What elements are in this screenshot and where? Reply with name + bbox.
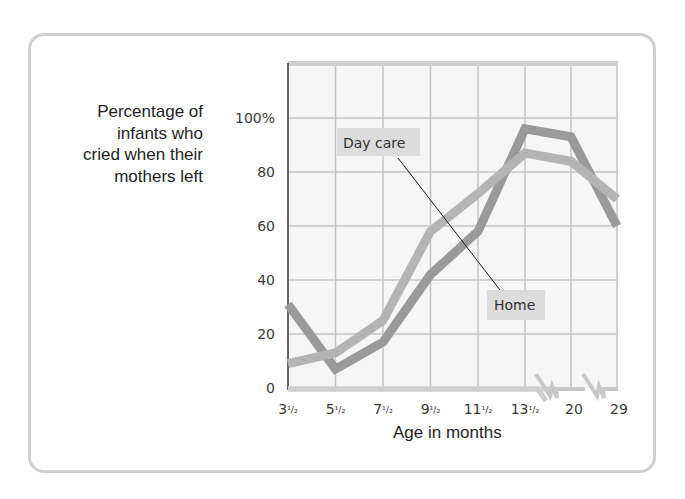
- x-tick-label: 7¹/₂: [373, 401, 393, 417]
- x-axis-label: Age in months: [393, 423, 502, 443]
- x-tick-label: 20: [565, 401, 583, 417]
- plot-top-border: [288, 61, 618, 66]
- y-tick-labels: 020406080100%: [235, 110, 275, 396]
- x-tick-label: 3¹/₂: [278, 401, 298, 417]
- y-tick-label: 40: [257, 272, 275, 288]
- y-tick-label: 0: [266, 380, 275, 396]
- x-tick-label: 9¹/₂: [421, 401, 441, 417]
- annotation-day-care: Day care: [337, 128, 420, 156]
- x-tick-label: 5¹/₂: [326, 401, 346, 417]
- y-tick-label: 60: [257, 218, 275, 234]
- x-tick-labels: 3¹/₂5¹/₂7¹/₂9¹/₂11¹/₂13¹/₂2029: [278, 401, 628, 417]
- annotation-text: Day care: [343, 135, 405, 151]
- x-tick-label: 13¹/₂: [511, 401, 540, 417]
- y-tick-label: 80: [257, 164, 275, 180]
- annotation-text: Home: [494, 297, 535, 313]
- y-tick-label: 100%: [235, 110, 275, 126]
- line-chart: 020406080100% 3¹/₂5¹/₂7¹/₂9¹/₂11¹/₂13¹/₂…: [0, 0, 685, 499]
- x-tick-label: 29: [610, 401, 628, 417]
- y-tick-label: 20: [257, 326, 275, 342]
- x-tick-label: 11¹/₂: [464, 401, 493, 417]
- annotation-home: Home: [487, 290, 545, 320]
